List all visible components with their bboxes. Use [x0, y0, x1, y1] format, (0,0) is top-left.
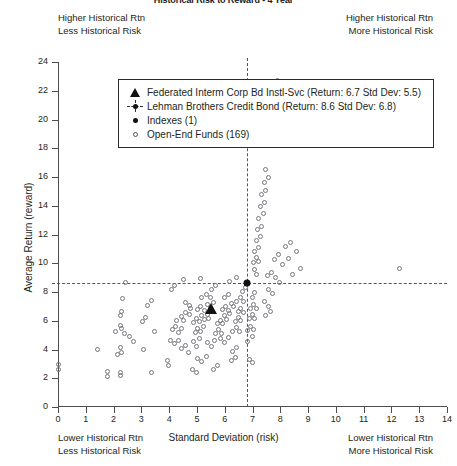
data-point-fund [56, 367, 61, 372]
data-point-fund [211, 367, 216, 372]
x-tick [114, 407, 115, 413]
x-tick-label: 7 [243, 414, 263, 424]
legend-item: Lehman Brothers Credit Bond (Return: 8.6… [125, 99, 427, 113]
x-tick-label: 6 [215, 414, 235, 424]
data-point-fund [179, 326, 184, 331]
x-tick [308, 407, 309, 413]
quadrant-note-top-right: Higher Historical Rtn More Historical Ri… [346, 12, 433, 37]
data-point-fund [224, 317, 229, 322]
data-point-index [243, 280, 250, 287]
data-point-fund [176, 338, 181, 343]
data-point-fund [280, 262, 285, 267]
legend-item: Open-End Funds (169) [125, 127, 427, 141]
y-tick-label: 4 [8, 344, 48, 354]
data-point-fund [172, 283, 177, 288]
data-point-fund [272, 257, 277, 262]
data-point-fund [276, 252, 281, 257]
y-tick-label: 2 [8, 372, 48, 382]
data-point-fund [234, 345, 239, 350]
y-tick-label: 22 [8, 85, 48, 95]
data-point-fund [181, 318, 186, 323]
x-tick [197, 407, 198, 413]
data-point-fund [254, 306, 259, 311]
data-point-fund [145, 303, 150, 308]
data-point-fund [250, 360, 255, 365]
data-point-fund [256, 259, 261, 264]
data-point-fund [197, 319, 202, 324]
y-tick-label: 18 [8, 142, 48, 152]
quadrant-note-top-left: Higher Historical Rtn Less Historical Ri… [58, 12, 145, 37]
data-point-fund [286, 256, 291, 261]
legend-item: Indexes (1) [125, 113, 427, 127]
data-point-fund [201, 324, 206, 329]
data-point-fund [258, 204, 263, 209]
x-tick [169, 407, 170, 413]
y-tick-label: 6 [8, 315, 48, 325]
data-point-fund [283, 244, 288, 249]
quadrant-note-top-right-line1: Higher Historical Rtn [346, 12, 433, 25]
data-point-fund [209, 344, 214, 349]
y-tick-label: 20 [8, 114, 48, 124]
data-point-fund [263, 188, 268, 193]
x-tick-label: 12 [381, 414, 401, 424]
data-point-fund [119, 350, 124, 355]
x-tick [253, 407, 254, 413]
y-tick-label: 0 [8, 401, 48, 411]
data-point-fund [258, 234, 263, 239]
data-point-fund [222, 340, 227, 345]
x-tick-label: 4 [159, 414, 179, 424]
y-tick-label: 16 [8, 171, 48, 181]
x-tick [364, 407, 365, 413]
legend-item-label: Lehman Brothers Credit Bond (Return: 8.6… [145, 101, 396, 112]
x-tick [447, 407, 448, 413]
y-tick-label: 8 [8, 286, 48, 296]
data-point-fund [141, 347, 146, 352]
data-point-fund [234, 275, 239, 280]
data-point-fund [266, 175, 271, 180]
x-tick-label: 5 [187, 414, 207, 424]
x-tick [280, 407, 281, 413]
x-tick [391, 407, 392, 413]
data-point-fund [187, 312, 192, 317]
x-tick [86, 407, 87, 413]
data-point-fund [288, 240, 293, 245]
filled-dot-icon [125, 113, 145, 127]
data-point-fund [197, 336, 202, 341]
data-point-fund [270, 291, 275, 296]
data-point-fund [251, 260, 256, 265]
open-circle-icon [125, 127, 145, 141]
quadrant-note-top-right-line2: More Historical Risk [346, 25, 433, 38]
data-point-fund [181, 277, 186, 282]
data-point-fund [233, 319, 238, 324]
data-point-fund [95, 347, 100, 352]
data-point-fund [123, 280, 128, 285]
data-point-fund [263, 167, 268, 172]
quadrant-note-top-left-line1: Higher Historical Rtn [58, 12, 145, 25]
data-point-fund [259, 192, 264, 197]
data-point-fund [231, 304, 236, 309]
data-point-fund [143, 315, 148, 320]
data-point-fund [176, 330, 181, 335]
data-point-fund [173, 324, 178, 329]
data-point-fund [259, 224, 264, 229]
data-point-fund [241, 310, 246, 315]
data-point-fund [152, 329, 157, 334]
data-point-fund [120, 296, 125, 301]
x-tick-label: 13 [409, 414, 429, 424]
data-point-fund [215, 363, 220, 368]
data-point-fund [226, 308, 231, 313]
filled-triangle-icon [125, 85, 145, 99]
data-point-fund [254, 272, 259, 277]
x-tick-label: 3 [131, 414, 151, 424]
data-point-fund [397, 266, 402, 271]
data-point-fund [226, 292, 231, 297]
data-point-fund [262, 200, 267, 205]
data-point-fund [206, 316, 211, 321]
legend-item-label: Open-End Funds (169) [145, 129, 249, 140]
x-tick-label: 2 [104, 414, 124, 424]
y-tick-label: 10 [8, 257, 48, 267]
x-tick-label: 11 [354, 414, 374, 424]
legend-item-label: Federated Interm Corp Bd Instl-Svc (Retu… [145, 87, 421, 98]
data-point-fund [194, 370, 199, 375]
